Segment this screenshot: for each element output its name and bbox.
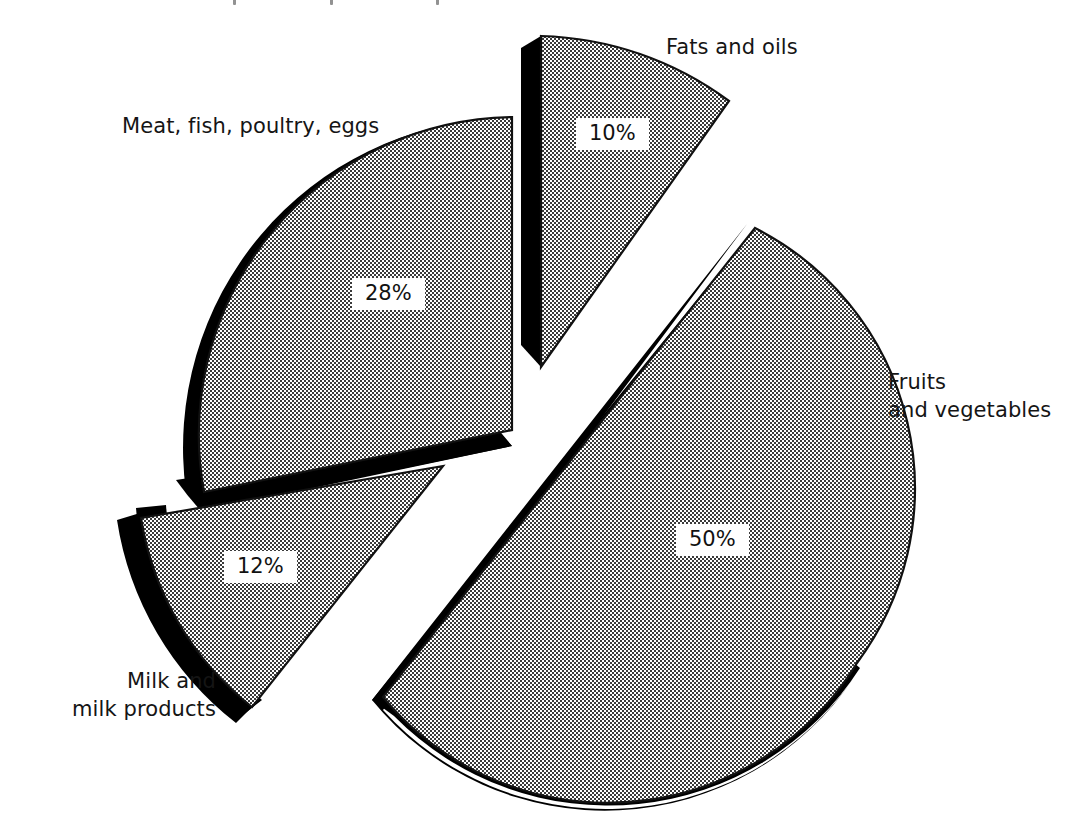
slice-value-fruits-and-vegetables: 50% bbox=[676, 524, 749, 556]
slice-label-milk-and-milk-products-line1: Milk and bbox=[0, 668, 216, 696]
slice-value-fats-and-oils: 10% bbox=[576, 118, 649, 150]
slice-value-milk-and-milk-products: 12% bbox=[224, 551, 297, 583]
slice-depth-fats bbox=[521, 36, 541, 367]
slice-label-meat-fish-poultry-eggs: Meat, fish, poultry, eggs bbox=[122, 113, 379, 141]
slice-label-fruits-and-vegetables-line2: and vegetables bbox=[888, 397, 1051, 425]
pie-chart: Fats and oils Meat, fish, poultry, eggs … bbox=[0, 0, 1074, 816]
slice-label-fruits-and-vegetables-line1: Fruits bbox=[888, 369, 946, 397]
slice-value-meat-fish-poultry-eggs: 28% bbox=[352, 278, 425, 310]
slice-label-fats-and-oils: Fats and oils bbox=[666, 34, 798, 62]
slice-label-milk-and-milk-products-line2: milk products bbox=[0, 696, 216, 724]
